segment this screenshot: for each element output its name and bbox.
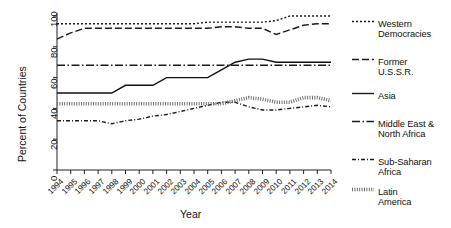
legend-line-sample: [352, 112, 374, 121]
legend-label: Western Democracies: [378, 19, 431, 39]
series-group: [57, 16, 331, 124]
legend-label: Former U.S.S.R.: [378, 57, 413, 77]
y-axis-title: Percent of Countries: [16, 66, 28, 162]
y-tick-label: 20: [48, 140, 59, 151]
legend-line-sample: [352, 50, 374, 59]
chart-figure: 020406080100 199419951996199719981999200…: [0, 0, 451, 228]
series-line: [57, 24, 331, 39]
legend-line-sample: [352, 12, 374, 21]
series-line: [57, 59, 331, 93]
legend-label: Asia: [378, 91, 396, 101]
x-axis-title: Year: [180, 208, 201, 220]
chart-legend: Western DemocraciesFormer U.S.S.R.AsiaMi…: [352, 10, 451, 220]
legend-line-sample: [352, 150, 374, 159]
y-tick-label: 100: [48, 11, 59, 27]
legend-line-sample: [352, 84, 374, 93]
legend-label: Latin America: [378, 187, 411, 207]
legend-line-sample: [352, 180, 374, 189]
series-line: [57, 16, 331, 24]
y-tick-label: 40: [48, 109, 59, 120]
series-line: [57, 98, 331, 104]
legend-label: Sub-Saharan Africa: [378, 157, 432, 177]
legend-label: Middle East & North Africa: [378, 119, 434, 139]
y-tick-label: 60: [48, 78, 59, 89]
y-tick-label: 80: [48, 47, 59, 58]
